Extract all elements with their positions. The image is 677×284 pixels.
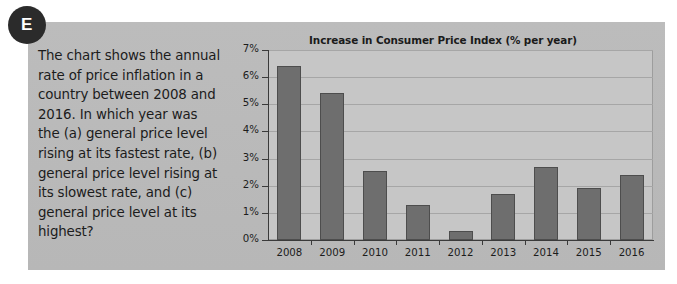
x-axis-label: 2014 (524, 247, 568, 258)
y-axis-tick (262, 159, 268, 160)
chart-title: Increase in Consumer Price Index (% per … (228, 34, 658, 46)
x-axis-line (268, 240, 654, 241)
y-axis-line (268, 50, 269, 241)
bar (320, 93, 344, 240)
bar (491, 194, 515, 240)
bar (620, 175, 644, 240)
x-axis-label: 2015 (567, 247, 611, 258)
x-axis-tick (354, 240, 355, 245)
page-root: E The chart shows the annual rate of pri… (0, 0, 677, 284)
y-axis-tick (262, 213, 268, 214)
y-axis-label: 5% (228, 97, 259, 108)
x-axis-label: 2011 (396, 247, 440, 258)
y-axis-label: 0% (228, 233, 259, 244)
gridline (268, 77, 653, 78)
y-axis-label: 1% (228, 206, 259, 217)
x-axis-tick (525, 240, 526, 245)
x-axis-label: 2008 (267, 247, 311, 258)
x-axis-tick (311, 240, 312, 245)
y-axis-label: 6% (228, 70, 259, 81)
x-axis-tick (567, 240, 568, 245)
y-axis-tick (262, 104, 268, 105)
question-badge: E (8, 6, 46, 44)
gridline (268, 50, 653, 51)
bar-chart: Increase in Consumer Price Index (% per … (228, 34, 658, 260)
x-axis-label: 2012 (439, 247, 483, 258)
x-axis-tick (482, 240, 483, 245)
y-axis-tick (262, 50, 268, 51)
x-axis-label: 2009 (310, 247, 354, 258)
y-axis-tick (262, 186, 268, 187)
x-axis-label: 2010 (353, 247, 397, 258)
bar (577, 188, 601, 240)
y-axis-tick (262, 240, 268, 241)
x-axis-label: 2013 (481, 247, 525, 258)
bar (534, 167, 558, 240)
x-axis-tick (396, 240, 397, 245)
y-axis-label: 2% (228, 179, 259, 190)
question-text: The chart shows the annual rate of price… (38, 46, 220, 242)
y-axis-tick (262, 77, 268, 78)
bar (363, 171, 387, 240)
x-axis-tick (610, 240, 611, 245)
y-axis-label: 4% (228, 124, 259, 135)
x-axis-tick (439, 240, 440, 245)
y-axis-label: 3% (228, 152, 259, 163)
bar (449, 231, 473, 241)
bar (406, 205, 430, 240)
x-axis-label: 2016 (610, 247, 654, 258)
y-axis-tick (262, 131, 268, 132)
y-axis-label: 7% (228, 43, 259, 54)
bar (277, 66, 301, 240)
